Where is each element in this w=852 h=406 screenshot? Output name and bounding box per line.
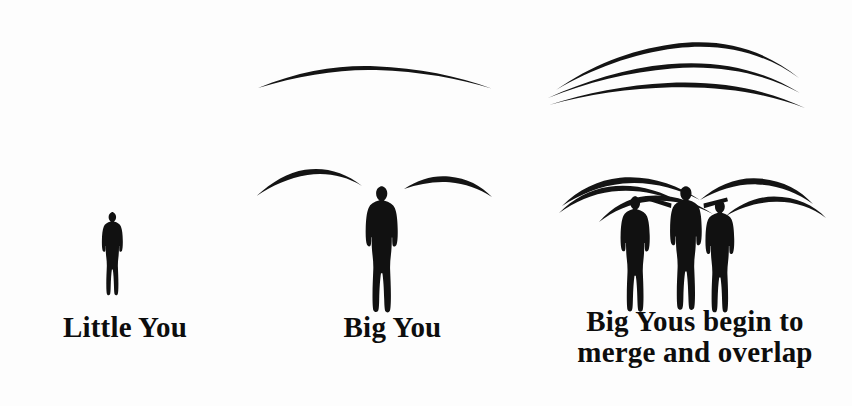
caption-big-you: Big You bbox=[275, 312, 510, 343]
panel-big-yous-merge-art bbox=[548, 42, 826, 312]
big-you-right-wing-arc bbox=[404, 176, 492, 197]
big-you-figure bbox=[366, 186, 398, 312]
panel-little-you-art bbox=[102, 212, 123, 295]
little-you-figure bbox=[102, 212, 123, 295]
merge-figure-right bbox=[705, 200, 734, 312]
merge-figure-left bbox=[621, 196, 650, 312]
caption-big-yous-merge: Big Yous begin to merge and overlap bbox=[545, 306, 845, 369]
merge-wing-arc-e bbox=[726, 197, 826, 219]
illustration-canvas: Little You Big You Big Yous begin to mer… bbox=[0, 0, 852, 406]
merge-upper-arc-3 bbox=[549, 83, 805, 108]
caption-big-yous-merge-line-2: merge and overlap bbox=[545, 337, 845, 368]
caption-big-yous-merge-line-1: Big Yous begin to bbox=[545, 306, 845, 337]
big-you-upper-arc bbox=[258, 66, 492, 89]
caption-little-you: Little You bbox=[0, 312, 250, 343]
merge-figure-center bbox=[670, 186, 702, 310]
panel-big-you-art bbox=[257, 66, 493, 312]
big-you-left-wing-arc bbox=[257, 169, 363, 196]
